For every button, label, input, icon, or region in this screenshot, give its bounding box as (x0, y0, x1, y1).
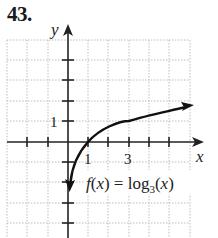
log-graph: x y 1 3 1 f(x) = log3(x) (0, 0, 218, 238)
y-axis-label: y (49, 20, 59, 39)
function-label: f(x) = log3(x) (86, 174, 174, 195)
x-tick-label-3: 3 (124, 151, 132, 167)
y-axis (62, 30, 74, 238)
x-tick-label-1: 1 (84, 151, 92, 167)
x-axis (7, 137, 196, 147)
x-axis-label: x (195, 147, 204, 166)
grid (7, 40, 190, 238)
y-tick-label-1: 1 (50, 114, 58, 130)
